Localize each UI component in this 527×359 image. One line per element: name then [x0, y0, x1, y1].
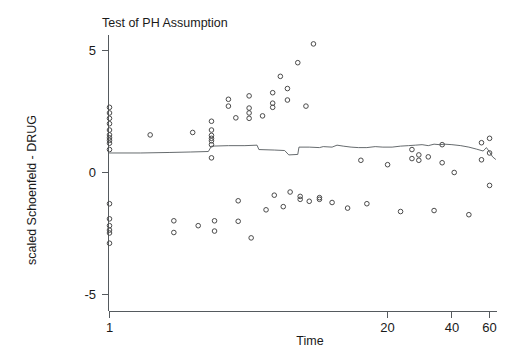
data-point [107, 121, 112, 126]
x-axis-ticks: 1204060 [106, 312, 497, 336]
data-point [278, 74, 283, 79]
data-point [107, 111, 112, 116]
chart-title: Test of PH Assumption [102, 16, 228, 30]
ph-assumption-scatter-plot: Test of PH Assumption scaled Schoenfeld … [0, 0, 527, 359]
x-tick-label: 20 [380, 320, 394, 335]
data-point [311, 42, 316, 47]
data-point [209, 156, 214, 161]
data-point [107, 147, 112, 152]
data-point [107, 141, 112, 146]
data-point [247, 94, 252, 99]
data-point [345, 206, 350, 211]
data-point [226, 104, 231, 109]
data-point [272, 193, 277, 198]
data-point [330, 200, 335, 205]
x-tick-label: 1 [106, 320, 113, 335]
data-point [479, 140, 484, 145]
x-axis-title: Time [296, 334, 323, 348]
data-point [196, 223, 201, 228]
data-point [107, 231, 112, 236]
data-point [452, 170, 457, 175]
data-point [212, 229, 217, 234]
y-axis: 50-5 [84, 35, 108, 311]
data-point [226, 97, 231, 102]
data-point [190, 130, 195, 135]
y-tick-label: 5 [89, 43, 96, 58]
data-point [295, 60, 300, 65]
data-point [307, 199, 312, 204]
data-point [247, 116, 252, 121]
y-tick-label: -5 [84, 287, 96, 302]
data-point [304, 104, 309, 109]
data-point [249, 236, 254, 241]
data-point [107, 241, 112, 246]
data-point [264, 208, 269, 213]
data-point [410, 147, 415, 152]
data-point [398, 209, 403, 214]
data-point [247, 106, 252, 111]
data-point [236, 198, 241, 203]
x-tick-label: 60 [482, 320, 496, 335]
data-point [417, 158, 422, 163]
data-point [209, 128, 214, 133]
data-point [107, 128, 112, 133]
data-point [440, 160, 445, 165]
data-point [285, 86, 290, 91]
data-point [172, 230, 177, 235]
data-point [417, 153, 422, 158]
data-point [107, 201, 112, 206]
data-point [107, 105, 112, 110]
data-point [148, 133, 153, 138]
data-point [487, 136, 492, 141]
data-point [107, 217, 112, 222]
data-point [298, 197, 303, 202]
smoother-curve [110, 144, 496, 159]
data-points [107, 42, 492, 246]
chart-figure: Test of PH Assumption scaled Schoenfeld … [0, 0, 527, 359]
data-point [467, 212, 472, 217]
data-point [260, 114, 265, 119]
data-point [281, 204, 286, 209]
data-point [270, 90, 275, 95]
x-axis: 1204060 [106, 312, 497, 336]
data-point [236, 219, 241, 224]
x-tick-label: 40 [445, 320, 459, 335]
y-axis-ticks: 50-5 [84, 43, 108, 302]
y-tick-label: 0 [89, 165, 96, 180]
data-point [426, 155, 431, 160]
data-point [172, 219, 177, 224]
data-point [410, 156, 415, 161]
data-point [209, 119, 214, 124]
data-point [288, 190, 293, 195]
data-point [365, 201, 370, 206]
data-point [487, 183, 492, 188]
data-point [285, 98, 290, 103]
spline-fit-line [110, 144, 496, 159]
data-point [359, 158, 364, 163]
data-point [385, 162, 390, 167]
data-point [212, 219, 217, 224]
data-point [107, 116, 112, 121]
data-point [234, 116, 239, 121]
data-point [479, 158, 484, 163]
y-axis-title: scaled Schoenfeld - DRUG [25, 115, 39, 265]
data-point [432, 208, 437, 213]
data-point [247, 111, 252, 116]
